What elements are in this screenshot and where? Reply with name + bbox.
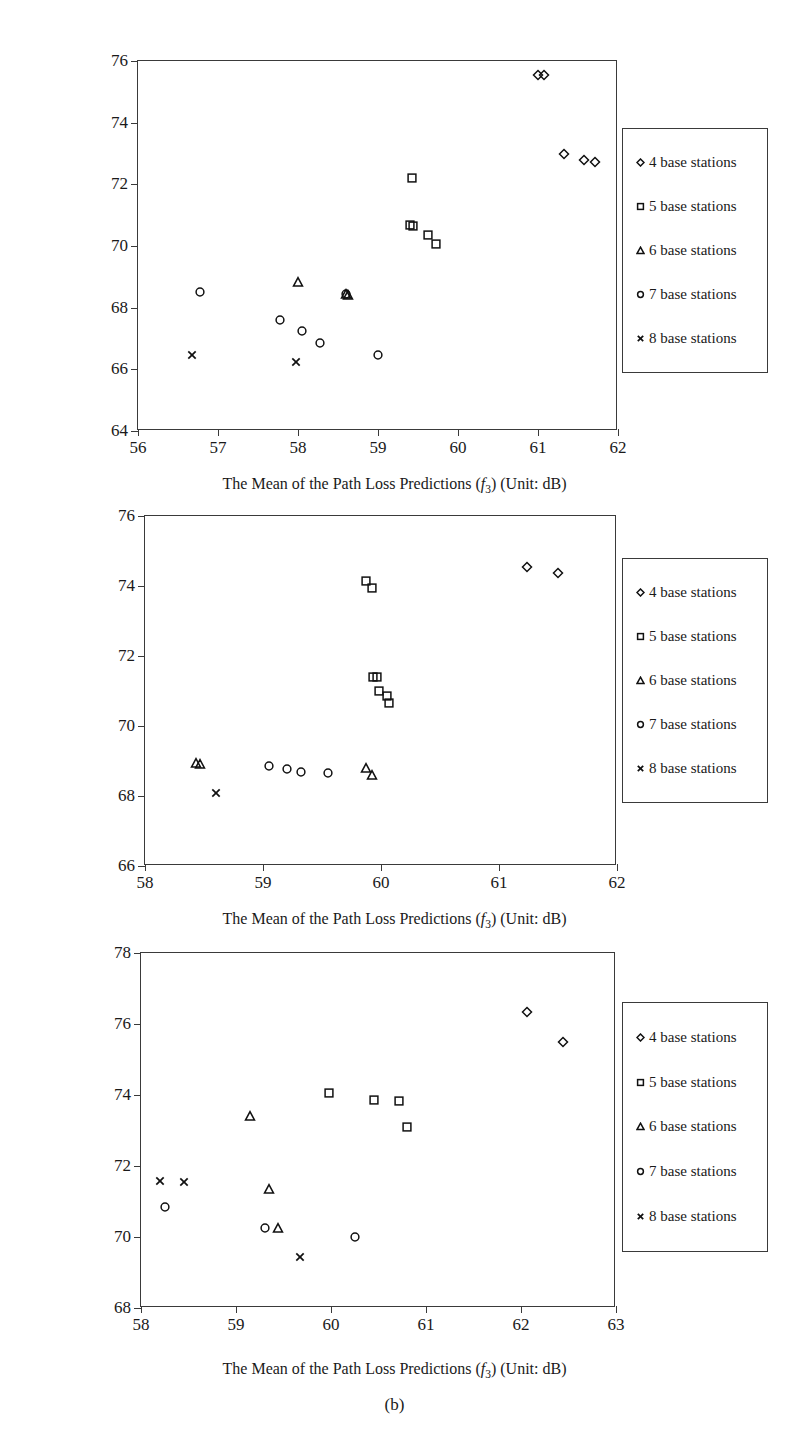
- data-point-diamond: [589, 156, 600, 167]
- scatter-plot-panel-top: The Mean of the Maximum Path Losspredict…: [0, 20, 789, 480]
- x-tick-mark: [378, 429, 379, 436]
- data-point-circle: [322, 768, 333, 779]
- y-tick-mark: [138, 796, 145, 797]
- x-tick-label: 62: [609, 873, 626, 893]
- data-point-circle: [263, 760, 274, 771]
- y-tick-label: 66: [118, 856, 135, 876]
- data-point-cross: [187, 350, 198, 361]
- x-tick-mark: [263, 864, 264, 871]
- x-tick-label: 63: [608, 1315, 625, 1335]
- x-tick-mark: [145, 864, 146, 871]
- data-point-triangle: [245, 1111, 256, 1122]
- legend-item-label: 4 base stations: [649, 154, 737, 171]
- y-tick-mark: [131, 61, 138, 62]
- y-tick-label: 76: [114, 1014, 131, 1034]
- x-tick-label: 61: [418, 1315, 435, 1335]
- y-tick-mark: [131, 308, 138, 309]
- legend-item-label: 5 base stations: [649, 198, 737, 215]
- plot-area-middle: 6668707274765859606162: [144, 515, 616, 865]
- data-point-cross: [290, 356, 301, 367]
- plot-area-top: 6466687072747656575859606162: [137, 60, 617, 430]
- x-tick-mark: [331, 1306, 332, 1313]
- y-tick-mark: [138, 586, 145, 587]
- data-point-triangle: [366, 770, 377, 781]
- y-tick-mark: [134, 1024, 141, 1025]
- legend-item-label: 8 base stations: [649, 330, 737, 347]
- y-tick-mark: [138, 516, 145, 517]
- x-tick-label: 56: [130, 438, 147, 458]
- y-tick-label: 76: [118, 506, 135, 526]
- legend-item-label: 7 base stations: [649, 286, 737, 303]
- y-tick-label: 78: [114, 943, 131, 963]
- legend-item: 5 base stations: [633, 198, 759, 215]
- legend-item-label: 8 base stations: [649, 760, 737, 777]
- legend-item: 7 base stations: [633, 716, 759, 733]
- x-axis-title-bottom: The Mean of the Path Loss Predictions (f…: [0, 1360, 789, 1380]
- data-point-triangle: [195, 758, 206, 769]
- data-point-circle: [159, 1201, 170, 1212]
- y-tick-mark: [138, 656, 145, 657]
- data-point-circle: [315, 338, 326, 349]
- legend-item: 8 base stations: [633, 330, 759, 347]
- y-tick-label: 64: [111, 421, 128, 441]
- legend-item: 6 base stations: [633, 672, 759, 689]
- square-icon: [633, 1078, 647, 1087]
- x-tick-label: 60: [323, 1315, 340, 1335]
- y-tick-mark: [134, 953, 141, 954]
- data-point-square: [384, 698, 395, 709]
- legend-middle: 4 base stations 5 base stations 6 base s…: [622, 558, 768, 803]
- y-tick-mark: [134, 1308, 141, 1309]
- data-point-triangle: [293, 277, 304, 288]
- plot-area-bottom: 687072747678585960616263: [140, 952, 615, 1307]
- legend-item-label: 5 base stations: [649, 1074, 737, 1091]
- data-point-square: [394, 1096, 405, 1107]
- x-tick-mark: [617, 864, 618, 871]
- legend-item: 7 base stations: [633, 286, 759, 303]
- x-tick-label: 58: [290, 438, 307, 458]
- x-tick-mark: [426, 1306, 427, 1313]
- data-point-circle: [281, 763, 292, 774]
- x-tick-label: 58: [133, 1315, 150, 1335]
- x-tick-mark: [538, 429, 539, 436]
- data-point-cross: [294, 1251, 305, 1262]
- y-tick-label: 66: [111, 359, 128, 379]
- y-tick-label: 72: [114, 1156, 131, 1176]
- x-tick-label: 61: [491, 873, 508, 893]
- figure-caption: (b): [0, 1395, 789, 1415]
- data-point-triangle: [264, 1184, 275, 1195]
- data-point-diamond: [558, 148, 569, 159]
- legend-item: 5 base stations: [633, 628, 759, 645]
- y-tick-label: 70: [111, 236, 128, 256]
- y-tick-label: 68: [118, 786, 135, 806]
- legend-item: 4 base stations: [633, 584, 759, 601]
- data-point-diamond: [553, 567, 564, 578]
- y-tick-label: 74: [114, 1085, 131, 1105]
- circle-icon: [633, 290, 647, 299]
- legend-top: 4 base stations 5 base stations 6 base s…: [622, 128, 768, 373]
- data-point-diamond: [521, 1006, 532, 1017]
- x-tick-mark: [499, 864, 500, 871]
- data-point-circle: [295, 767, 306, 778]
- legend-item: 5 base stations: [633, 1074, 759, 1091]
- x-tick-label: 57: [210, 438, 227, 458]
- legend-item-label: 6 base stations: [649, 672, 737, 689]
- data-point-triangle: [272, 1223, 283, 1234]
- data-point-square: [368, 1095, 379, 1106]
- cross-icon: [633, 764, 647, 773]
- y-tick-label: 72: [111, 174, 128, 194]
- x-axis-title-middle: The Mean of the Path Loss Predictions (f…: [0, 910, 789, 930]
- data-point-circle: [259, 1223, 270, 1234]
- y-tick-label: 70: [118, 716, 135, 736]
- scatter-plot-panel-middle: The Mean of the Maximum Path LossPredict…: [0, 490, 789, 940]
- legend-item-label: 4 base stations: [649, 1029, 737, 1046]
- y-tick-label: 74: [111, 113, 128, 133]
- data-point-circle: [373, 349, 384, 360]
- x-tick-label: 62: [513, 1315, 530, 1335]
- x-tick-mark: [616, 1306, 617, 1313]
- triangle-icon: [633, 676, 647, 685]
- data-point-diamond: [522, 561, 533, 572]
- data-point-cross: [155, 1175, 166, 1186]
- x-tick-label: 61: [530, 438, 547, 458]
- x-tick-mark: [381, 864, 382, 871]
- data-point-square: [406, 173, 417, 184]
